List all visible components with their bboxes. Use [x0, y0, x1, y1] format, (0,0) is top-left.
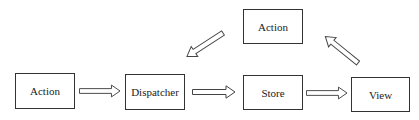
- node-view: View: [351, 77, 410, 112]
- node-label: Dispatcher: [131, 86, 179, 98]
- node-action-top: Action: [243, 9, 303, 44]
- arrow-view-to-action-top: [322, 32, 362, 68]
- node-label: View: [369, 89, 392, 101]
- arrow-action-top-to-dispatcher: [184, 28, 227, 61]
- node-label: Store: [261, 87, 284, 99]
- arrow-dispatcher-to-store: [193, 86, 236, 98]
- arrow-store-to-view: [306, 87, 347, 99]
- node-label: Action: [30, 85, 60, 97]
- arrow-action-to-dispatcher: [79, 85, 120, 97]
- node-action-left: Action: [15, 73, 75, 109]
- node-label: Action: [258, 21, 288, 33]
- node-dispatcher: Dispatcher: [125, 74, 185, 110]
- node-store: Store: [243, 75, 303, 110]
